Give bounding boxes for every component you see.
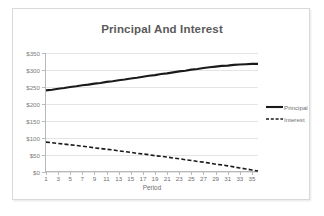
series-line-principal xyxy=(46,64,258,91)
x-tick-label: 15 xyxy=(127,175,134,182)
x-tick-label: 1 xyxy=(44,175,47,182)
y-tick-label: $300 xyxy=(26,67,40,74)
x-tick-label: 31 xyxy=(224,175,231,182)
legend-swatch-principal-icon xyxy=(266,103,283,111)
legend-swatch-interest-icon xyxy=(266,115,283,123)
x-axis-title: Period xyxy=(46,184,258,191)
y-tick-label: $200 xyxy=(26,101,40,108)
x-tick-label: 25 xyxy=(188,175,195,182)
legend-item-interest[interactable]: Interest xyxy=(266,113,314,125)
x-tick-label: 3 xyxy=(56,175,59,182)
y-tick-label: $50 xyxy=(30,152,40,159)
x-tick-label: 23 xyxy=(176,175,183,182)
y-tick-label: $150 xyxy=(26,118,40,125)
x-tick-label: 11 xyxy=(103,175,109,182)
y-tick-label: $100 xyxy=(26,135,40,142)
x-tick-label: 9 xyxy=(93,175,96,182)
plot-area-wrapper: $0$50$100$150$200$250$300$350 1357911131… xyxy=(46,53,258,172)
x-tick-label: 17 xyxy=(139,175,146,182)
x-tick-label: 21 xyxy=(164,175,171,182)
x-tick-label: 13 xyxy=(115,175,122,182)
x-tick-label: 29 xyxy=(212,175,219,182)
y-tick-label: $350 xyxy=(26,50,40,57)
chart-frame: Principal And Interest $0$50$100$150$200… xyxy=(12,8,310,200)
chart-title: Principal And Interest xyxy=(13,23,311,35)
x-tick-label: 7 xyxy=(81,175,84,182)
x-tick-label: 19 xyxy=(152,175,159,182)
chart-legend: PrincipalInterest xyxy=(266,101,314,125)
gridline xyxy=(46,172,258,173)
series-line-interest xyxy=(46,142,258,171)
legend-label: Interest xyxy=(284,116,305,123)
legend-item-principal[interactable]: Principal xyxy=(266,101,314,113)
x-tick-label: 35 xyxy=(248,175,255,182)
y-tick-label: $0 xyxy=(33,169,40,176)
y-tick-label: $250 xyxy=(26,84,40,91)
legend-label: Principal xyxy=(284,104,308,111)
x-tick-label: 33 xyxy=(236,175,243,182)
x-tick-label: 27 xyxy=(200,175,207,182)
series-lines xyxy=(46,53,258,172)
x-tick-label: 5 xyxy=(68,175,71,182)
